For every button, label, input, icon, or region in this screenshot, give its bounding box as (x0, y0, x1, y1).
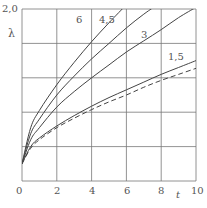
x-tick-4: 4 (89, 186, 95, 196)
y-axis-label: λ (8, 28, 15, 39)
curve-label-4-5: 4,5 (99, 15, 115, 25)
x-axis-label: t (176, 190, 180, 200)
curve-label-3: 3 (141, 30, 147, 40)
curve-label-6: 6 (76, 15, 82, 25)
y-tick-top: 2,0 (2, 4, 18, 14)
curve-label-1-5: 1,5 (168, 52, 184, 62)
x-tick-0: 0 (16, 186, 22, 196)
x-tick-8: 8 (158, 186, 164, 196)
curve-dashed (22, 68, 196, 163)
x-tick-2: 2 (54, 186, 60, 196)
x-tick-6: 6 (124, 186, 130, 196)
curve-3 (22, 7, 196, 164)
chart-plot (0, 0, 207, 208)
x-tick-10: 10 (191, 186, 204, 196)
